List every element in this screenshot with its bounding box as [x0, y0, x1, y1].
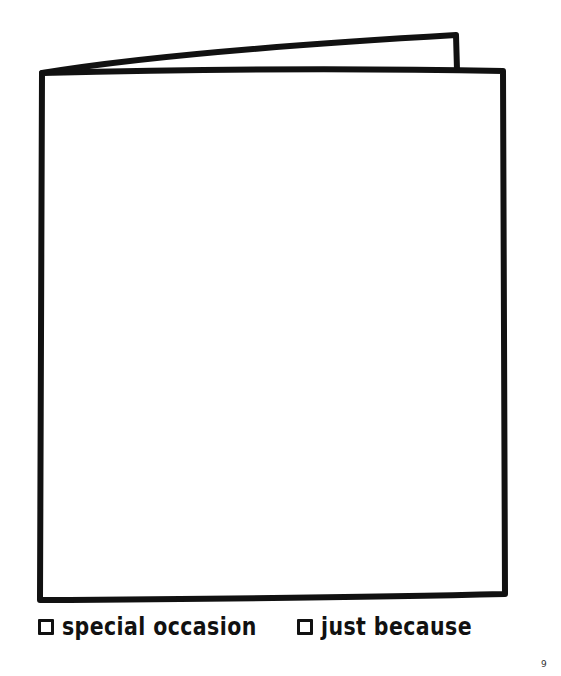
occasion-options: special occasion just because	[38, 612, 521, 641]
folded-card-outline	[0, 0, 561, 676]
option-label: special occasion	[62, 612, 257, 641]
page-number: 9	[541, 659, 547, 669]
option-special-occasion[interactable]: special occasion	[38, 612, 299, 641]
checkbox-special-occasion[interactable]	[38, 619, 54, 635]
card-front	[40, 69, 505, 600]
option-label: just because	[321, 612, 472, 641]
option-just-because[interactable]: just because	[297, 612, 505, 641]
checkbox-just-because[interactable]	[297, 619, 313, 635]
